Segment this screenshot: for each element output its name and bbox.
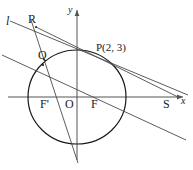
label-point-q: Q xyxy=(38,49,47,61)
label-focus-f-prime: F' xyxy=(40,98,49,110)
y-axis xyxy=(75,10,80,160)
label-point-s: S xyxy=(163,98,170,110)
label-origin: O xyxy=(65,98,74,110)
label-point-p: P(2, 3) xyxy=(96,42,126,53)
point-marker-r xyxy=(35,26,37,28)
label-y-axis: y xyxy=(68,5,72,15)
label-line-l: l xyxy=(6,15,9,27)
geometry-figure: l R Q P(2, 3) F' O F S x y xyxy=(0,0,193,170)
line-p-secant xyxy=(36,27,178,97)
label-point-r: R xyxy=(28,13,36,25)
label-x-axis: x xyxy=(181,96,185,106)
label-focus-f: F xyxy=(91,98,98,110)
line-through-r-and-q xyxy=(31,20,78,163)
point-marker-q xyxy=(42,64,44,66)
